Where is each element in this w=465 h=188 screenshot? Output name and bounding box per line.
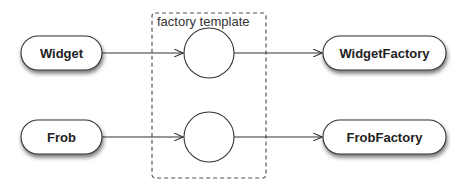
template-node-widget (184, 28, 234, 78)
widget-node-label: Widget (40, 46, 84, 61)
widgetfactory-node-label: WidgetFactory (339, 46, 430, 61)
template-node-frob (184, 112, 234, 162)
frobfactory-node-label: FrobFactory (347, 130, 424, 145)
row-frob: Frob FrobFactory (21, 112, 446, 162)
template-box-label: factory template (157, 14, 250, 29)
factory-diagram: factory template Widget WidgetFactory Fr… (0, 0, 465, 188)
row-widget: Widget WidgetFactory (21, 28, 446, 78)
frob-node-label: Frob (47, 130, 76, 145)
